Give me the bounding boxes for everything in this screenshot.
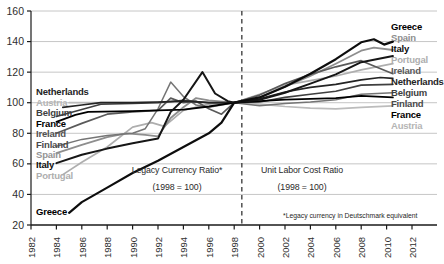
left-label-ireland: Ireland: [36, 129, 66, 139]
right-label-france: France: [391, 110, 421, 120]
x-tick-labels: 1982198419861988199019921994199619982000…: [26, 237, 418, 258]
right-label-belgium: Belgium: [391, 88, 427, 98]
deutschmark-footnote: *Legacy currency in Deutschmark equivale…: [283, 212, 418, 219]
right-label-netherlands: Netherlands: [391, 77, 444, 87]
svg-text:2002: 2002: [280, 237, 291, 258]
left-label-portugal: Portugal: [36, 171, 73, 181]
svg-text:1982: 1982: [26, 237, 37, 258]
left-label-netherlands: Netherlands: [36, 87, 89, 97]
unit-labor-cost-subtitle: (1998 = 100): [232, 179, 372, 196]
svg-text:160: 160: [6, 5, 24, 17]
svg-text:120: 120: [6, 66, 24, 78]
left-label-belgium: Belgium: [36, 108, 72, 118]
svg-text:2004: 2004: [305, 237, 316, 258]
svg-text:2012: 2012: [407, 237, 418, 258]
legacy-currency-subtitle: (1998 = 100): [107, 179, 247, 196]
legacy-currency-title: Legacy Currency Ratio*: [107, 162, 247, 179]
right-label-austria: Austria: [391, 121, 422, 131]
svg-text:20: 20: [12, 219, 24, 231]
svg-text:40: 40: [12, 188, 24, 200]
svg-text:60: 60: [12, 157, 24, 169]
svg-text:1992: 1992: [153, 237, 164, 258]
svg-text:1994: 1994: [178, 237, 189, 258]
svg-text:1996: 1996: [204, 237, 215, 258]
unit-labor-cost-title: Unit Labor Cost Ratio: [232, 162, 372, 179]
svg-text:2008: 2008: [356, 237, 367, 258]
legacy-currency-annotation: Legacy Currency Ratio* (1998 = 100): [107, 162, 247, 195]
svg-text:2010: 2010: [382, 237, 393, 258]
right-label-italy: Italy: [391, 44, 409, 54]
y-tick-labels: 20406080100120140160: [6, 5, 24, 231]
left-label-italy: Italy: [36, 160, 54, 170]
svg-text:1986: 1986: [77, 237, 88, 258]
svg-text:1988: 1988: [102, 237, 113, 258]
right-label-greece: Greece: [391, 22, 422, 32]
right-label-finland: Finland: [391, 99, 423, 109]
svg-text:140: 140: [6, 35, 24, 47]
svg-text:100: 100: [6, 96, 24, 108]
svg-text:1984: 1984: [51, 237, 62, 258]
unit-labor-cost-annotation: Unit Labor Cost Ratio (1998 = 100): [232, 162, 372, 195]
svg-text:2006: 2006: [331, 237, 342, 258]
series-line-portugal: [63, 64, 393, 175]
right-label-portugal: Portugal: [391, 55, 428, 65]
right-label-ireland: Ireland: [391, 66, 421, 76]
svg-text:80: 80: [12, 127, 24, 139]
svg-text:1998: 1998: [229, 237, 240, 258]
right-label-spain: Spain: [391, 33, 416, 43]
svg-text:1990: 1990: [128, 237, 139, 258]
left-label-greece: Greece: [36, 207, 67, 217]
svg-text:2000: 2000: [255, 237, 266, 258]
